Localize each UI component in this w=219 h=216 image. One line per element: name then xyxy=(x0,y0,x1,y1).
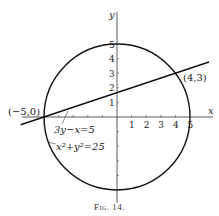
line-equation-label: 3y−x=5 xyxy=(54,124,95,135)
y-tick-label: 4 xyxy=(109,54,115,64)
point-label-4-3: (4,3) xyxy=(183,72,207,83)
y-tick-label: 3 xyxy=(109,69,115,79)
x-axis-label: x xyxy=(208,105,214,116)
x-tick-label: 5 xyxy=(188,120,194,130)
x-tick-label: 2 xyxy=(144,120,150,130)
x-tick-label: 3 xyxy=(158,120,164,130)
point-label-neg5-0: (−5,0) xyxy=(8,106,40,117)
y-tick-label: 2 xyxy=(109,83,115,93)
circle-equation-label: x²+y²=25 xyxy=(56,141,105,152)
figure-diagram: 1234512345 y x (−5,0) (4,3) 3y−x=5 x²+y²… xyxy=(0,0,219,216)
x-tick-label: 4 xyxy=(173,120,179,130)
figure-caption: Fig. 14. xyxy=(0,202,219,212)
x-tick-label: 1 xyxy=(129,120,135,130)
line-curve xyxy=(21,62,209,125)
y-tick-label: 5 xyxy=(109,40,115,50)
y-tick-label: 1 xyxy=(109,98,115,108)
y-axis-label: y xyxy=(108,9,115,20)
line-label-leader xyxy=(62,111,68,124)
